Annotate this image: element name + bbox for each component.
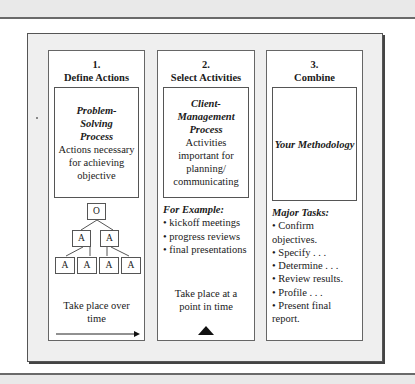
process-box: Client- Management Process Activities im… (163, 87, 249, 198)
timing-note: Take place at a point in time (158, 287, 254, 313)
list-item: progress reviews (163, 230, 252, 243)
list-item: Present final report. (272, 299, 360, 326)
column-heading: 1. Define Actions (49, 58, 144, 84)
tree-node-action: A (55, 257, 75, 274)
box-title-line: Client- (191, 97, 221, 110)
list-item: Profile . . . (272, 286, 360, 299)
timing-line: Take place over (49, 299, 144, 312)
box-text-line: Actions necessary (58, 143, 134, 156)
action-tree: O A A A A A A (49, 201, 146, 291)
box-text-line: planning/ (186, 162, 226, 175)
list-heading: Major Tasks: (272, 206, 360, 219)
list-item: Specify . . . (272, 246, 360, 259)
bottom-divider-band (0, 373, 415, 384)
timing-line: point in time (158, 300, 254, 313)
tree-node-action: A (99, 257, 119, 274)
tree-node-action: A (121, 257, 141, 274)
list-item: Confirm objectives. (272, 219, 360, 246)
list-heading: For Example: (163, 203, 252, 216)
box-title-line: Process (80, 130, 113, 143)
step-number: 2. (158, 58, 254, 71)
arrow-right-icon (56, 331, 140, 337)
tree-node-action: A (72, 230, 91, 247)
stray-mark (36, 117, 38, 119)
tree-node-objective: O (87, 203, 106, 220)
list-item: final presentations (163, 243, 252, 256)
tree-node-action: A (77, 257, 97, 274)
box-title-line: Solving (80, 117, 113, 130)
step-title: Combine (267, 71, 362, 84)
box-title-line: Problem- (76, 104, 116, 117)
column-heading: 2. Select Activities (158, 58, 254, 84)
timing-note: Take place over time (49, 299, 144, 325)
process-box: Problem- Solving Process Actions necessa… (54, 87, 139, 198)
step-title: Select Activities (158, 71, 254, 84)
triangle-up-icon (198, 326, 214, 335)
box-text-line: important for (178, 149, 234, 162)
step-number: 3. (267, 58, 362, 71)
column-define-actions: 1. Define Actions Problem- Solving Proce… (48, 50, 145, 341)
box-title: Your Methodology (275, 138, 355, 151)
methodology-box: Your Methodology (272, 87, 357, 201)
column-heading: 3. Combine (267, 58, 362, 84)
top-divider-band (0, 0, 415, 19)
box-text-line: communicating (173, 175, 238, 188)
timing-line: time (49, 312, 144, 325)
step-title: Define Actions (49, 71, 144, 84)
major-tasks-list: Major Tasks: Confirm objectives. Specify… (272, 206, 360, 326)
list-item: kickoff meetings (163, 216, 252, 229)
box-title-line: Management (177, 110, 234, 123)
example-list: For Example: kickoff meetings progress r… (163, 203, 252, 256)
box-text-line: Activities (186, 136, 227, 149)
step-number: 1. (49, 58, 144, 71)
tree-node-action: A (100, 230, 119, 247)
list-item: Determine . . . (272, 259, 360, 272)
timing-line: Take place at a (158, 287, 254, 300)
box-text-line: for achieving (69, 156, 125, 169)
box-title-line: Process (189, 123, 222, 136)
list-item: Review results. (272, 272, 360, 285)
column-combine: 3. Combine Your Methodology Major Tasks:… (266, 50, 363, 341)
column-select-activities: 2. Select Activities Client- Management … (157, 50, 255, 341)
box-text-line: objective (77, 169, 115, 182)
